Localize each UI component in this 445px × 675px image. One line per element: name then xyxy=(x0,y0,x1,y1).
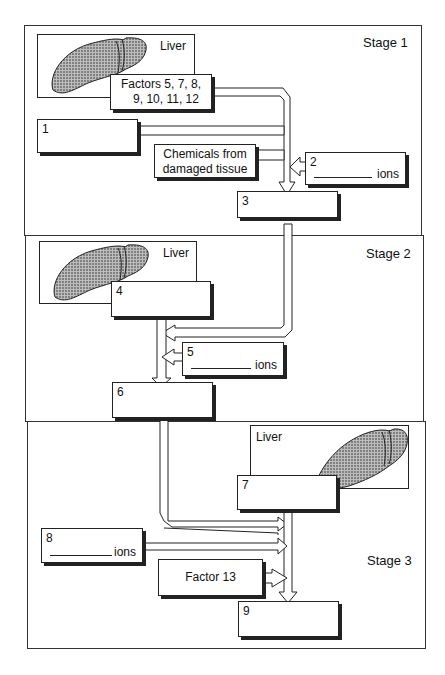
answer-box-7[interactable]: 7 xyxy=(237,475,337,510)
answer-box-4[interactable]: 4 xyxy=(111,281,211,317)
blank-line[interactable] xyxy=(314,177,372,178)
box-number: 8 xyxy=(46,531,53,545)
box-number: 3 xyxy=(242,194,249,208)
box-number: 9 xyxy=(243,604,250,618)
ions-suffix: ions xyxy=(255,358,277,372)
box-number: 6 xyxy=(117,385,124,399)
box-number: 5 xyxy=(187,345,194,359)
factor-13-box: Factor 13 xyxy=(158,559,263,596)
factors-label-line2: 9, 10, 11, 12 xyxy=(111,92,211,107)
box-number: 7 xyxy=(242,478,249,492)
answer-box-6[interactable]: 6 xyxy=(112,382,213,418)
chemicals-label-line1: Chemicals from xyxy=(155,147,255,162)
ions-suffix: ions xyxy=(377,167,399,181)
factor-13-label: Factor 13 xyxy=(159,570,262,585)
chemicals-from-damaged-tissue-box: Chemicals from damaged tissue xyxy=(154,144,256,178)
blank-line[interactable] xyxy=(191,368,251,369)
factors-5-7-8-9-10-11-12-box: Factors 5, 7, 8, 9, 10, 11, 12 xyxy=(110,74,212,110)
chemicals-label-line2: damaged tissue xyxy=(155,162,255,177)
answer-box-5-ions[interactable]: 5 ions xyxy=(182,342,284,376)
answer-box-1[interactable]: 1 xyxy=(37,119,138,153)
answer-box-8-ions[interactable]: 8 ions xyxy=(41,528,143,563)
ions-suffix: ions xyxy=(114,545,136,559)
factors-label-line1: Factors 5, 7, 8, xyxy=(111,77,211,92)
answer-box-9[interactable]: 9 xyxy=(238,601,339,637)
box-number: 1 xyxy=(42,122,49,136)
answer-box-2-ions[interactable]: 2 ions xyxy=(305,152,406,185)
box-number: 4 xyxy=(116,284,123,298)
answer-box-3[interactable]: 3 xyxy=(237,191,338,218)
blank-line[interactable] xyxy=(50,555,112,556)
box-number: 2 xyxy=(310,155,317,169)
